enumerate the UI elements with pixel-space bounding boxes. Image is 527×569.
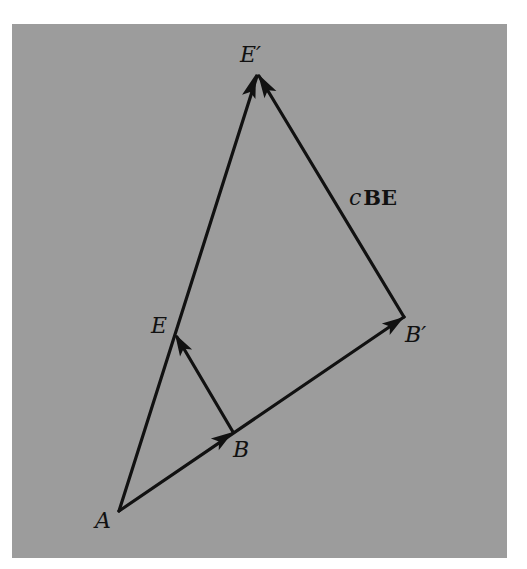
label-vector-be: BE: [363, 185, 397, 210]
label-a: A: [93, 508, 111, 533]
vector-diagram: E′ E B′ B A cBE: [0, 0, 527, 569]
label-scalar-c: c: [349, 185, 361, 210]
label-b-prime: B′: [404, 322, 426, 347]
label-b: B: [232, 437, 249, 462]
figure-background-panel: [12, 24, 507, 558]
label-e-prime: E′: [239, 42, 261, 67]
label-c-be: cBE: [349, 185, 397, 210]
label-e: E: [150, 313, 167, 338]
